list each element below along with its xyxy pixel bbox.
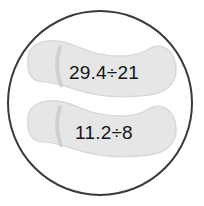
outer-circle — [8, 11, 192, 195]
shoe-sole-diagram: 29.4÷21 11.2÷8 — [0, 0, 204, 206]
lower-sole-label: 11.2÷8 — [75, 122, 133, 143]
illustration-canvas: 29.4÷21 11.2÷8 — [0, 0, 204, 206]
upper-sole-label: 29.4÷21 — [69, 62, 139, 83]
